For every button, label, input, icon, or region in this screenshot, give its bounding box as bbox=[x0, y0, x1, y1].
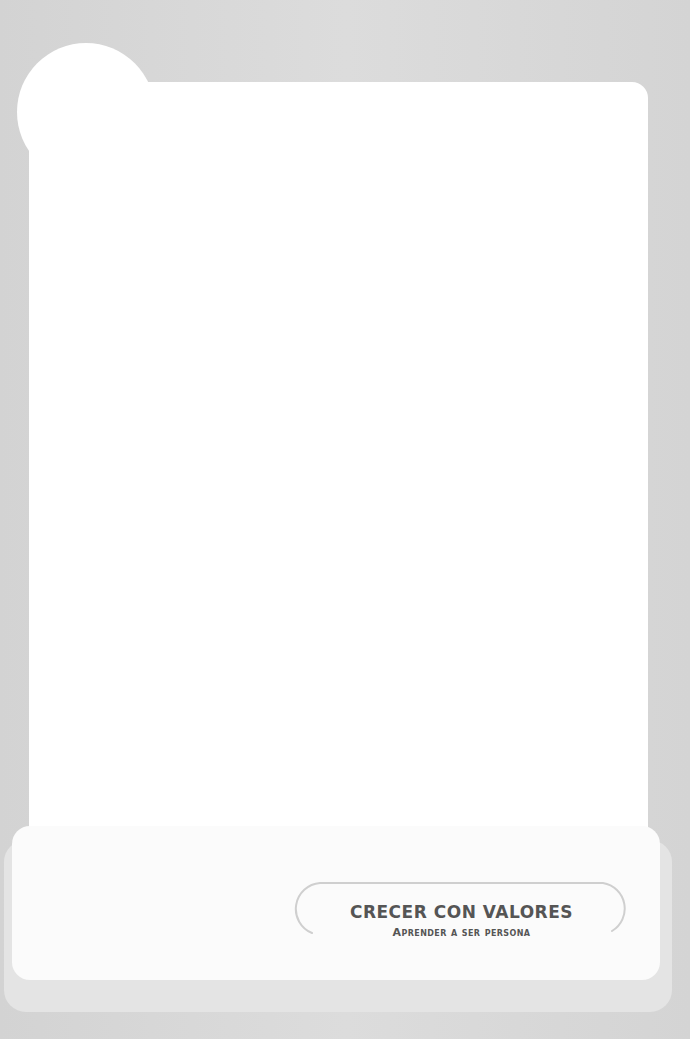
main-content-panel bbox=[29, 82, 648, 862]
book-title: CRECER CON VALORES bbox=[292, 902, 631, 923]
book-subtitle: Aprender a ser persona bbox=[292, 926, 631, 939]
title-pill: CRECER CON VALORES Aprender a ser person… bbox=[292, 881, 631, 951]
corner-circle-decoration bbox=[17, 43, 155, 181]
